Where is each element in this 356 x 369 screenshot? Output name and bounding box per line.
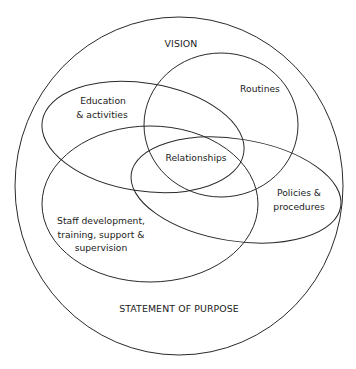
statement-of-purpose-label: STATEMENT OF PURPOSE <box>119 303 239 314</box>
staff-label-line-1: Staff development, <box>57 215 145 226</box>
staff-label-line-3: supervision <box>75 242 128 253</box>
education-label-line-1: Education <box>80 95 126 106</box>
staff-label-line-2: training, support & <box>58 229 145 240</box>
policies-label-line-2: procedures <box>273 201 325 212</box>
education-label-line-2: & activities <box>76 109 128 120</box>
routines-ellipse <box>144 53 298 197</box>
venn-diagram: VISION Routines Education & activities R… <box>0 0 356 369</box>
vision-label: VISION <box>165 38 198 49</box>
policies-label-line-1: Policies & <box>277 187 321 198</box>
relationships-label: Relationships <box>165 152 226 163</box>
staff-ellipse <box>42 126 258 282</box>
routines-label: Routines <box>240 83 280 94</box>
